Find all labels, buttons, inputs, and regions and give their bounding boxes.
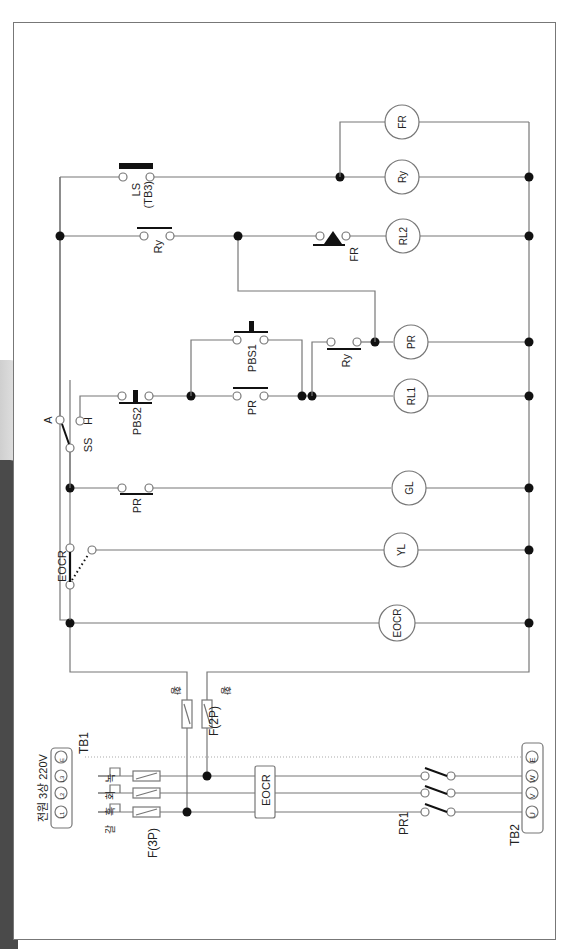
- branch-yl: YL: [96, 533, 534, 567]
- tb2-terminal-v: V: [528, 793, 537, 799]
- branch-fr-coil: FR: [340, 105, 529, 177]
- branch-gl: PR GL: [66, 471, 534, 513]
- tb1-terminal-l3: L3: [59, 775, 65, 782]
- branch-rl1: PBS2 PR PBS1 RL1: [80, 321, 534, 435]
- eocr-contact-label: EOCR: [56, 550, 68, 582]
- pbs2-label: PBS2: [131, 407, 143, 435]
- tb2-terminal-w: W: [528, 775, 537, 783]
- wire-label-yellow-2: 황: [220, 686, 231, 695]
- ss-label: SS: [82, 438, 94, 453]
- branch-ry-coil: LS (TB3) Ry: [60, 160, 534, 209]
- wire-color-gray: 회: [105, 791, 116, 800]
- eocr-main-label: EOCR: [260, 774, 272, 806]
- wire-color-green: 녹: [105, 774, 116, 783]
- main-fuse-f3p: F(3P): [133, 771, 160, 858]
- tb1-terminal-l2: L2: [59, 792, 65, 799]
- fuse-2p-label: F(2P): [207, 706, 221, 736]
- tb1-terminal-e: E: [59, 758, 65, 762]
- pr-selfhold-label: PR: [246, 400, 258, 415]
- ry-contact-2-label: Ry: [340, 354, 352, 368]
- ls-tb3-label: (TB3): [142, 181, 154, 209]
- run-lamp-2-label: RL2: [398, 226, 409, 245]
- tb1-label: TB1: [77, 732, 91, 754]
- circuit-diagram: 황 황 F(2P) F(3P) EOCR: [0, 0, 569, 949]
- branch-pr-coil: Ry PR: [238, 236, 534, 396]
- junction-dot: [203, 772, 212, 781]
- pbs1-label: PBS1: [246, 344, 258, 372]
- fuse-3p-label: F(3P): [146, 828, 160, 858]
- wire-color-black: 흑: [104, 807, 116, 816]
- branch-rl2: Ry FR RL2: [56, 219, 534, 262]
- power-supply-label: 전원 3상 220V: [37, 753, 49, 822]
- pr-contact-label: PR: [131, 498, 143, 513]
- junction-dot: [183, 808, 192, 817]
- tb2-terminal-u: U: [528, 812, 537, 818]
- fr-contact-label: FR: [348, 247, 360, 262]
- yellow-lamp-label: YL: [396, 543, 407, 556]
- ss-position-h: H: [82, 417, 94, 425]
- ss-position-a: A: [42, 416, 54, 424]
- tb2-label: TB2: [508, 824, 522, 846]
- run-lamp-1-label: RL1: [406, 386, 417, 405]
- ry-coil-label: Ry: [397, 171, 408, 183]
- green-lamp-label: GL: [404, 481, 415, 495]
- eocr-coil-label: EOCR: [392, 609, 403, 638]
- main-circuit: F(3P) EOCR PR1 E W V U TB2: [85, 743, 543, 858]
- ry-contact-1-label: Ry: [152, 240, 164, 254]
- left-bus: [60, 177, 187, 700]
- pr-coil-label: PR: [406, 335, 417, 349]
- wire-color-brown: 갈: [104, 825, 116, 834]
- pr1-label: PR1: [397, 811, 411, 835]
- tb2-terminal-e: E: [528, 757, 537, 762]
- fr-coil-label: FR: [397, 115, 408, 128]
- tb1-terminal-l1: L1: [59, 811, 65, 818]
- tb1-terminal-block: E L3 L2 L1 전원 3상 220V TB1 녹 회 흑 갈: [37, 732, 116, 834]
- ls-label: LS: [130, 183, 142, 196]
- selector-switch-ss: A H SS: [42, 177, 94, 488]
- tb2-terminal-block: E W V U TB2: [508, 743, 543, 846]
- branch-eocr-coil: EOCR: [66, 605, 534, 641]
- pr1-contacts: PR1: [397, 768, 455, 835]
- wire-label-yellow-1: 황: [170, 686, 181, 695]
- eocr-main-box: EOCR: [255, 766, 275, 818]
